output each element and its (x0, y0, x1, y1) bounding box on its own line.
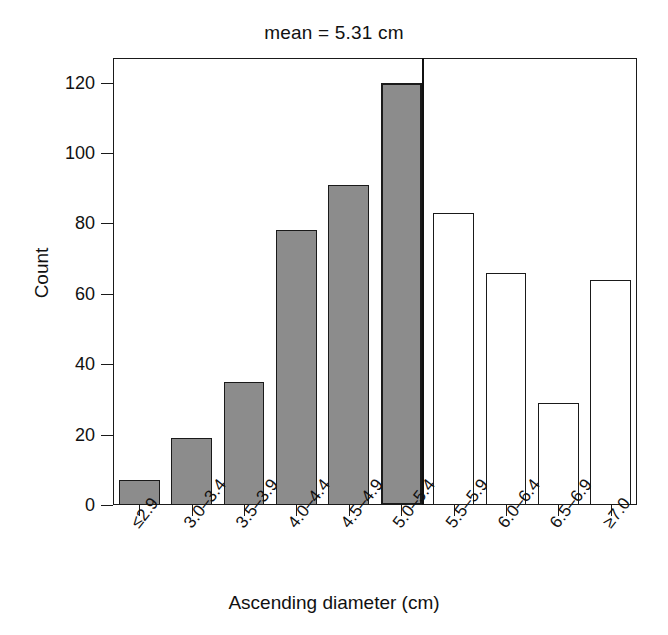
bars-layer (113, 58, 637, 505)
y-tick (101, 294, 113, 295)
y-tick-label: 20 (37, 424, 95, 445)
y-tick-label: 120 (37, 72, 95, 93)
bar-5.55.9 (433, 213, 474, 505)
bar-4.54.9 (328, 185, 369, 505)
bar-4.04.4 (276, 230, 317, 505)
y-tick (101, 435, 113, 436)
y-tick-label: 0 (37, 495, 95, 516)
mean-line (422, 58, 424, 505)
y-tick (101, 153, 113, 154)
bar-7.0 (590, 280, 631, 505)
y-tick-label: 60 (37, 283, 95, 304)
bar-6.06.4 (486, 273, 527, 505)
y-tick (101, 505, 113, 506)
x-axis-title: Ascending diameter (cm) (0, 592, 668, 614)
y-tick (101, 83, 113, 84)
histogram-figure: mean = 5.31 cm Count Ascending diameter … (0, 0, 668, 635)
y-tick (101, 223, 113, 224)
chart-title: mean = 5.31 cm (0, 22, 668, 44)
bar-5.05.4 (381, 83, 422, 505)
caption-fragment (14, 624, 654, 635)
y-tick-label: 100 (37, 143, 95, 164)
y-tick-label: 40 (37, 354, 95, 375)
y-tick (101, 364, 113, 365)
y-tick-label: 80 (37, 213, 95, 234)
